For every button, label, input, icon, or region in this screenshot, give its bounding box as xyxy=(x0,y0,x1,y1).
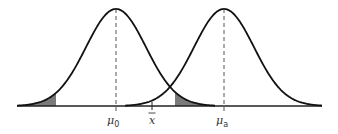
distribution-curves xyxy=(17,9,322,106)
mua-label: μa xyxy=(216,114,228,129)
mean-lines xyxy=(116,9,224,111)
right-tail-region xyxy=(175,92,213,106)
left-tail-region xyxy=(17,93,56,106)
mu0-label: μ0 xyxy=(107,114,119,129)
xbar-label: x xyxy=(149,114,156,127)
hypothesis-test-diagram: μ0 x μa xyxy=(0,0,338,134)
